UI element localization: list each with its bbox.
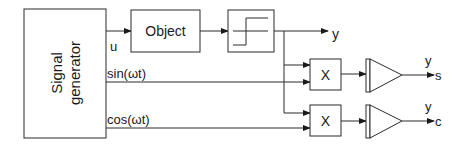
signal-generator-block: Signal generator: [24, 9, 106, 138]
integrator-sin-block: [366, 59, 402, 92]
multiplier-sin-label: X: [321, 67, 331, 83]
y-output-label: y: [332, 26, 339, 42]
y-s-label: y: [425, 53, 432, 68]
cos-label: cos(ωt): [107, 112, 150, 127]
signal-generator-label-2: generator: [66, 41, 83, 105]
c-label: c: [435, 114, 442, 129]
multiplier-cos-block: X: [310, 105, 341, 136]
integrator-cos-block: [366, 105, 402, 138]
signal-generator-label-1: Signal: [48, 52, 65, 94]
u-label: u: [110, 39, 117, 54]
y-c-label: y: [425, 99, 432, 114]
block-diagram: Signal generator u Object y sin(ωt) cos(…: [0, 0, 461, 149]
relay-block: [228, 10, 274, 52]
object-label: Object: [145, 23, 186, 39]
s-label: s: [435, 68, 442, 83]
sin-label: sin(ωt): [107, 66, 146, 81]
object-block: Object: [131, 10, 200, 52]
multiplier-cos-label: X: [321, 113, 331, 129]
multiplier-sin-block: X: [310, 59, 341, 90]
